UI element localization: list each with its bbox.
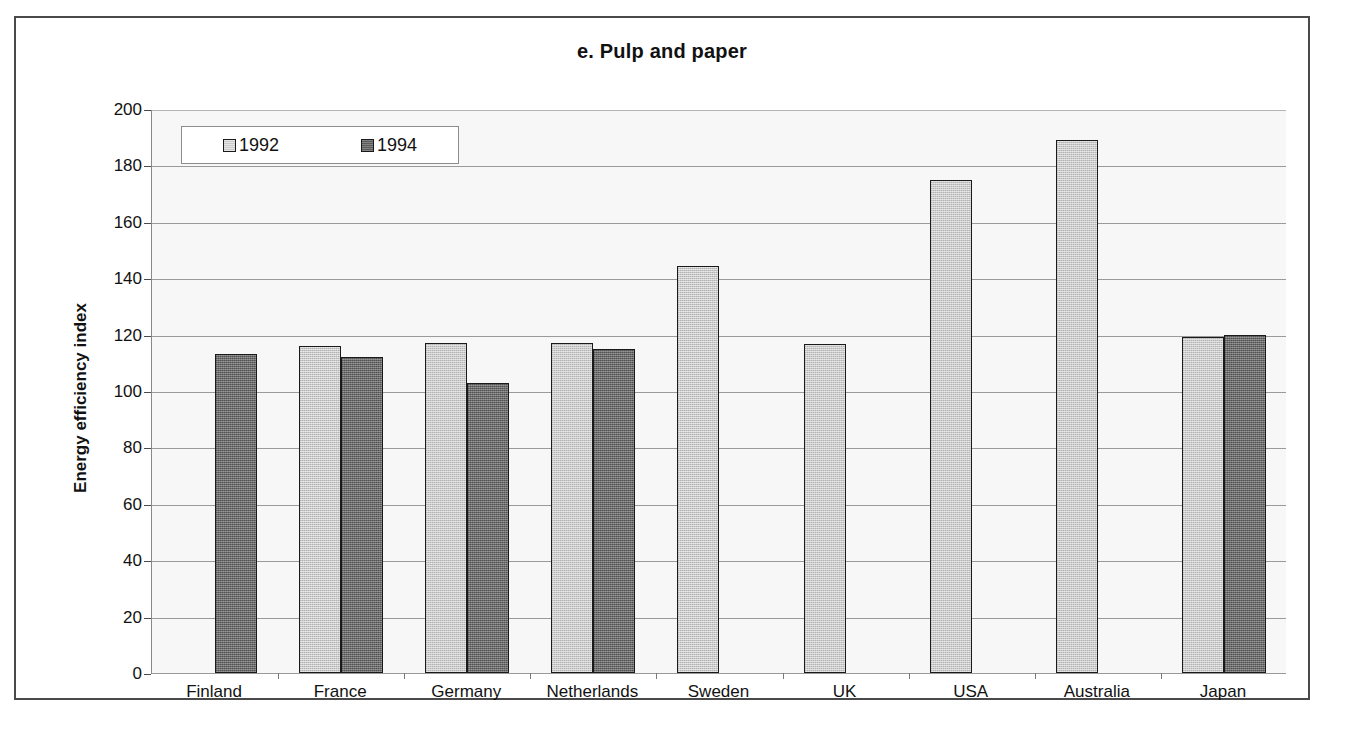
y-tick-label-40: 40 bbox=[82, 551, 142, 571]
y-tick-mark-0 bbox=[144, 674, 151, 675]
bar-group bbox=[278, 110, 404, 673]
y-tick-mark-100 bbox=[144, 392, 151, 393]
y-tick-label-120: 120 bbox=[82, 326, 142, 346]
bars-layer bbox=[152, 110, 1286, 673]
x-axis-tick-mark bbox=[278, 673, 279, 679]
x-tick-label-usa: USA bbox=[953, 682, 988, 702]
bar-group bbox=[783, 110, 909, 673]
bar-netherlands-1994 bbox=[593, 349, 635, 673]
y-tick-label-20: 20 bbox=[82, 608, 142, 628]
x-tick-label-sweden: Sweden bbox=[688, 682, 749, 702]
bar-netherlands-1992 bbox=[551, 343, 593, 673]
x-axis-tick-mark bbox=[783, 673, 784, 679]
y-tick-mark-160 bbox=[144, 223, 151, 224]
bar-uk-1992 bbox=[804, 344, 846, 673]
x-tick-label-finland: Finland bbox=[186, 682, 242, 702]
legend-label-1992: 1992 bbox=[239, 135, 279, 156]
y-tick-mark-60 bbox=[144, 505, 151, 506]
chart-legend: 1992 1994 bbox=[181, 126, 459, 164]
legend-item-1994: 1994 bbox=[361, 135, 417, 156]
chart-title: e. Pulp and paper bbox=[16, 40, 1308, 63]
bar-group bbox=[1035, 110, 1161, 673]
y-tick-mark-120 bbox=[144, 336, 151, 337]
y-tick-label-140: 140 bbox=[82, 269, 142, 289]
y-tick-mark-140 bbox=[144, 279, 151, 280]
x-tick-label-germany: Germany bbox=[431, 682, 501, 702]
x-tick-label-france: France bbox=[314, 682, 367, 702]
x-axis-tick-mark bbox=[404, 673, 405, 679]
bar-sweden-1992 bbox=[677, 266, 719, 673]
bar-japan-1994 bbox=[1224, 335, 1266, 673]
bar-germany-1992 bbox=[425, 343, 467, 673]
y-tick-mark-80 bbox=[144, 448, 151, 449]
bar-france-1994 bbox=[341, 357, 383, 673]
legend-swatch-1992-icon bbox=[223, 139, 236, 152]
x-axis-tick-mark bbox=[909, 673, 910, 679]
y-tick-mark-40 bbox=[144, 561, 151, 562]
y-tick-mark-200 bbox=[144, 110, 151, 111]
bar-group bbox=[656, 110, 782, 673]
bar-japan-1992 bbox=[1182, 337, 1224, 673]
bar-finland-1994 bbox=[215, 354, 257, 673]
y-tick-label-60: 60 bbox=[82, 495, 142, 515]
y-tick-label-200: 200 bbox=[82, 100, 142, 120]
y-tick-label-100: 100 bbox=[82, 382, 142, 402]
x-axis-tick-labels: FinlandFranceGermanyNetherlandsSwedenUKU… bbox=[151, 682, 1286, 712]
y-axis-tick-marks bbox=[144, 110, 151, 674]
x-tick-label-australia: Australia bbox=[1064, 682, 1130, 702]
y-tick-label-0: 0 bbox=[82, 664, 142, 684]
bar-usa-1992 bbox=[930, 180, 972, 674]
y-tick-label-180: 180 bbox=[82, 156, 142, 176]
x-axis-tick-mark bbox=[656, 673, 657, 679]
y-tick-mark-180 bbox=[144, 166, 151, 167]
y-tick-label-160: 160 bbox=[82, 213, 142, 233]
figure-frame: e. Pulp and paper Energy efficiency inde… bbox=[14, 16, 1310, 700]
x-axis-tick-mark bbox=[1035, 673, 1036, 679]
legend-label-1994: 1994 bbox=[377, 135, 417, 156]
bar-group bbox=[404, 110, 530, 673]
x-axis-tick-mark bbox=[1161, 673, 1162, 679]
bar-group bbox=[909, 110, 1035, 673]
bar-australia-1992 bbox=[1056, 140, 1098, 673]
bar-group bbox=[1161, 110, 1287, 673]
y-tick-mark-20 bbox=[144, 618, 151, 619]
x-tick-label-uk: UK bbox=[833, 682, 857, 702]
plot-area bbox=[151, 110, 1286, 674]
x-tick-label-netherlands: Netherlands bbox=[547, 682, 639, 702]
bar-group bbox=[152, 110, 278, 673]
bar-group bbox=[530, 110, 656, 673]
y-tick-label-80: 80 bbox=[82, 438, 142, 458]
x-tick-label-japan: Japan bbox=[1200, 682, 1246, 702]
legend-swatch-1994-icon bbox=[361, 139, 374, 152]
x-axis-tick-mark bbox=[530, 673, 531, 679]
bar-germany-1994 bbox=[467, 383, 509, 673]
legend-item-1992: 1992 bbox=[223, 135, 279, 156]
bar-france-1992 bbox=[299, 346, 341, 673]
y-axis-tick-labels: 200180160140120100806040200 bbox=[78, 110, 142, 674]
gridline-0 bbox=[152, 673, 1286, 674]
